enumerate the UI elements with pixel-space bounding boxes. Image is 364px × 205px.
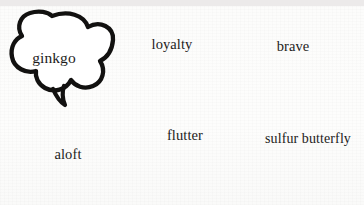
bubble-ginkgo-outline: [12, 12, 113, 91]
illustration-canvas: .ink { fill: #ffffff; stroke: #121110; s…: [0, 0, 364, 205]
ink-outlines-layer: .ink { fill: #ffffff; stroke: #121110; s…: [0, 0, 364, 205]
bubble-ginkgo[interactable]: [12, 12, 113, 105]
